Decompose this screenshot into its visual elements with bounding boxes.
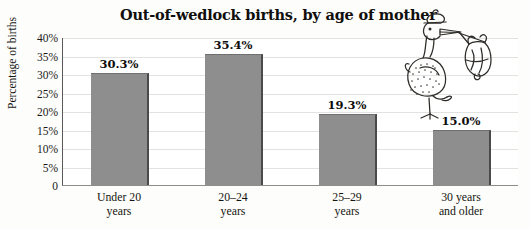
x-category-label-line: years: [332, 204, 362, 218]
bar-value-label: 35.4%: [214, 38, 253, 52]
bar-value-label: 19.3%: [328, 98, 367, 112]
y-tick-label: 20%: [12, 106, 58, 118]
bar: [205, 54, 264, 185]
bar: [319, 114, 378, 185]
bar: [433, 130, 492, 186]
y-tick-label: 40%: [12, 32, 58, 44]
bar-value-label: 30.3%: [100, 57, 139, 71]
y-tick-label: 30%: [12, 69, 58, 81]
y-tick-label: 25%: [12, 88, 58, 100]
x-category-label: 20–24years: [218, 190, 248, 218]
y-tick-label: 15%: [12, 125, 58, 137]
bar-value-label: 15.0%: [442, 114, 481, 128]
x-category-label: 30 yearsand older: [439, 190, 483, 218]
y-tick-label: 35%: [12, 51, 58, 63]
x-category-label-line: 20–24: [218, 190, 248, 204]
x-category-label-line: years: [97, 204, 141, 218]
y-tick-label: 10%: [12, 143, 58, 155]
gridline: [63, 38, 518, 39]
bar: [91, 73, 150, 185]
x-category-label-line: 30 years: [439, 190, 483, 204]
x-category-label-line: Under 20: [97, 190, 141, 204]
x-category-label: 25–29years: [332, 190, 362, 218]
chart-container: Out-of-wedlock births, by age of mother …: [0, 0, 530, 229]
x-category-label-line: and older: [439, 204, 483, 218]
y-tick-label: 5%: [12, 162, 58, 174]
y-tick-label: 0: [12, 180, 58, 192]
x-category-label: Under 20years: [97, 190, 141, 218]
x-category-label-line: years: [218, 204, 248, 218]
x-category-label-line: 25–29: [332, 190, 362, 204]
chart-title: Out-of-wedlock births, by age of mother: [120, 6, 410, 23]
